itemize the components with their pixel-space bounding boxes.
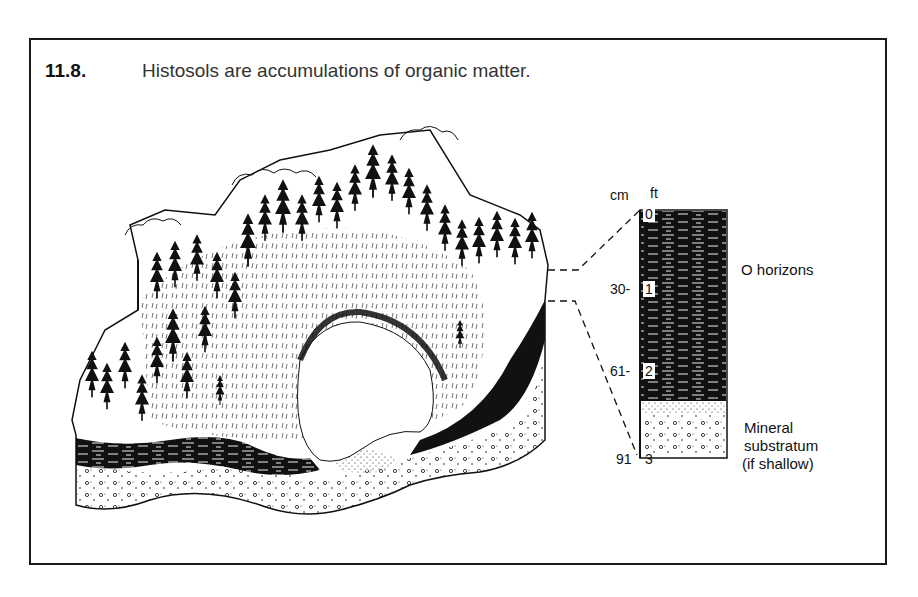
tick-ft-1: 1 xyxy=(643,281,655,297)
mineral-label-line3: (if shallow) xyxy=(742,455,814,473)
unit-cm: cm xyxy=(610,187,629,203)
soil-profile-column xyxy=(640,210,727,458)
block-diagram xyxy=(72,126,548,514)
tick-cm-30: 30- xyxy=(610,281,630,297)
histosol-illustration xyxy=(0,0,918,597)
tick-cm-61: 61- xyxy=(610,363,630,379)
tick-ft-3: 3 xyxy=(645,451,653,467)
tick-ft-0: 0 xyxy=(643,206,655,222)
tick-cm-91: 91 xyxy=(616,451,632,467)
o-horizons-label: O horizons xyxy=(741,261,814,279)
tick-ft-2: 2 xyxy=(643,363,655,379)
connector-lines xyxy=(548,210,640,455)
unit-ft: ft xyxy=(650,185,658,201)
mineral-label-line1: Mineral xyxy=(744,419,793,437)
mineral-label-line2: substratum xyxy=(744,437,818,455)
